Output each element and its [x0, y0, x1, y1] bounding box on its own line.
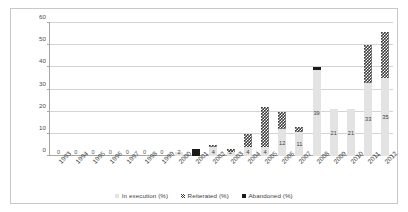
segment-reiterated — [381, 32, 389, 79]
segment-reiterated — [364, 45, 372, 83]
legend-swatch-reiterated — [181, 194, 185, 198]
legend-label: In execution (%) — [122, 192, 168, 199]
bar-value-label: 21 — [331, 130, 337, 136]
bar-value-label: 4 — [212, 149, 215, 155]
bar-group-1999[interactable]: 0 — [153, 23, 170, 156]
bar-group-2007[interactable]: 11 — [291, 23, 308, 156]
y-tick-label-20: 20 — [39, 101, 46, 108]
bar-group-1998[interactable]: 0 — [136, 23, 153, 156]
y-tick-label-50: 50 — [39, 35, 46, 42]
plot-area: 0102030405060 00000002424412113921213335 — [49, 23, 393, 156]
bar-group-1994[interactable]: 0 — [67, 23, 84, 156]
bar-group-2006[interactable]: 12 — [274, 23, 291, 156]
bar-value-label: 11 — [296, 141, 302, 147]
bar-value-label: 35 — [382, 114, 388, 120]
bar-value-label: 2 — [229, 149, 232, 155]
bar-group-2004[interactable]: 4 — [239, 23, 256, 156]
y-tick-label-10: 10 — [39, 123, 46, 130]
chart-frame: 0102030405060 00000002424412113921213335… — [10, 8, 398, 204]
bar-value-label: 2 — [177, 149, 180, 155]
bar-group-2005[interactable]: 4 — [256, 23, 273, 156]
bar-group-1997[interactable]: 0 — [119, 23, 136, 156]
legend-swatch-in-execution — [115, 194, 119, 198]
bar-group-2008[interactable]: 39 — [308, 23, 325, 156]
bar-group-1993[interactable]: 0 — [50, 23, 67, 156]
y-tick-label-0: 0 — [42, 146, 46, 153]
legend-item-0[interactable]: In execution (%) — [115, 192, 168, 199]
bar-group-2011[interactable]: 33 — [360, 23, 377, 156]
chart-figure: 0102030405060 00000002424412113921213335… — [0, 0, 408, 212]
bar-value-label: 39 — [313, 110, 319, 116]
y-tick-label-40: 40 — [39, 57, 46, 64]
segment-abandoned — [313, 67, 321, 69]
legend-swatch-abandoned — [242, 194, 246, 198]
bar-group-1996[interactable]: 0 — [102, 23, 119, 156]
legend-label: Reiterated (%) — [188, 192, 229, 199]
bar-group-2002[interactable]: 4 — [205, 23, 222, 156]
legend-item-2[interactable]: Abandoned (%) — [242, 192, 293, 199]
segment-reiterated — [278, 112, 286, 130]
legend-item-1[interactable]: Reiterated (%) — [181, 192, 229, 199]
bar-value-label: 33 — [365, 116, 371, 122]
bar-value-label: 0 — [143, 150, 146, 156]
bar-group-2009[interactable]: 21 — [325, 23, 342, 156]
bar-value-label: 4 — [263, 149, 266, 155]
segment-reiterated — [261, 107, 269, 147]
y-tick-label-60: 60 — [39, 13, 46, 20]
chart-legend: In execution (%)Reiterated (%)Abandoned … — [11, 192, 397, 199]
bar-group-2001[interactable] — [188, 23, 205, 156]
bar-value-label: 4 — [246, 149, 249, 155]
bars-layer: 00000002424412113921213335 — [50, 23, 393, 156]
segment-reiterated — [295, 127, 303, 131]
bar-group-2003[interactable]: 2 — [222, 23, 239, 156]
y-tick-label-30: 30 — [39, 79, 46, 86]
bar-group-2010[interactable]: 21 — [342, 23, 359, 156]
bar-group-2012[interactable]: 35 — [377, 23, 394, 156]
bar-group-1995[interactable]: 0 — [84, 23, 101, 156]
legend-label: Abandoned (%) — [248, 192, 292, 199]
bar-value-label: 0 — [57, 150, 60, 156]
segment-reiterated — [244, 134, 252, 147]
bar-value-label: 12 — [279, 140, 285, 146]
bar-group-2000[interactable]: 2 — [170, 23, 187, 156]
segment-reiterated — [209, 145, 217, 147]
bar-value-label: 21 — [348, 130, 354, 136]
